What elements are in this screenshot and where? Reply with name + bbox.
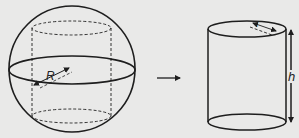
sphere <box>9 6 135 132</box>
sphere-radius-label: R <box>46 70 55 82</box>
sphere-equator <box>9 56 135 84</box>
cylinder-height-label: h <box>287 70 296 83</box>
radius-r-indicator <box>250 23 276 35</box>
sphere-outline <box>9 6 135 132</box>
cylinder <box>208 21 291 130</box>
cylinder-top <box>208 21 286 37</box>
cylinder-bottom <box>208 114 286 130</box>
cylinder-radius-label: r <box>256 19 259 29</box>
diagram-svg <box>0 0 299 138</box>
diagram-canvas: R r h <box>0 0 299 138</box>
